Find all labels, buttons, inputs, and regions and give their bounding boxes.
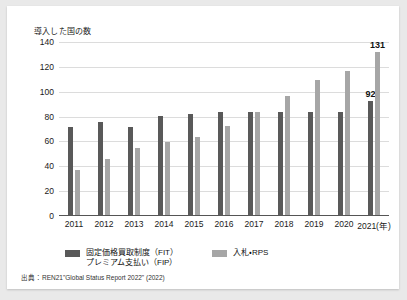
y-tick-label: 120	[40, 62, 54, 72]
bar-rps-2017	[255, 112, 260, 215]
x-tick-label-2011: 2011	[65, 219, 83, 229]
bar-group-2020: 2020	[338, 41, 350, 215]
x-axis-line	[59, 215, 389, 216]
bar-fit-2017	[248, 112, 253, 215]
x-tick-label-2014: 2014	[155, 219, 174, 229]
bar-value-label-fit-2021: 92	[365, 89, 375, 99]
bar-chart: 導入した国の数 02040608010012014020112012201320…	[7, 6, 399, 238]
bar-fit-2011	[68, 127, 73, 215]
bar-rps-2020	[345, 71, 350, 215]
y-tick-label: 0	[49, 211, 54, 221]
legend-label-rps: 入札・RPS	[233, 248, 268, 258]
bar-group-2014: 2014	[158, 41, 170, 215]
bar-group-2016: 2016	[218, 41, 230, 215]
bar-fit-2013	[128, 127, 133, 215]
bar-group-2021: 921312021(年)	[368, 41, 380, 215]
x-tick-label-2012: 2012	[95, 219, 114, 229]
plot-area: 0204060801001201402011201220132014201520…	[59, 42, 389, 216]
bar-rps-2012	[105, 159, 110, 215]
bar-fit-2020	[338, 112, 343, 215]
bar-group-2017: 2017	[248, 41, 260, 215]
bar-group-2015: 2015	[188, 41, 200, 215]
bar-rps-2018	[285, 96, 290, 215]
bar-fit-2019	[308, 112, 313, 215]
y-tick-label: 140	[40, 37, 54, 47]
legend-label-rps-line1: 入札・RPS	[233, 248, 268, 257]
y-tick-label: 80	[45, 112, 54, 122]
x-tick-label-2015: 2015	[185, 219, 204, 229]
bar-rps-2019	[315, 80, 320, 215]
bar-value-label-rps-2021: 131	[370, 40, 385, 50]
y-tick-label: 60	[45, 136, 54, 146]
chart-legend: 固定価格買取制度（FIT） プレミアム支払い（FIP） 入札・RPS	[65, 248, 268, 268]
y-tick-label: 100	[40, 87, 54, 97]
bar-group-2019: 2019	[308, 41, 320, 215]
legend-label-fit: 固定価格買取制度（FIT） プレミアム支払い（FIP）	[86, 248, 178, 268]
bar-group-2011: 2011	[68, 41, 80, 215]
bar-fit-2021: 92	[368, 101, 373, 215]
bar-rps-2013	[135, 148, 140, 215]
legend-item-fit: 固定価格買取制度（FIT） プレミアム支払い（FIP）	[65, 248, 178, 268]
y-axis-title: 導入した国の数	[34, 25, 91, 36]
x-tick-label-2018: 2018	[275, 219, 294, 229]
bar-fit-2012	[98, 122, 103, 215]
bar-fit-2016	[218, 112, 223, 215]
x-tick-label-2020: 2020	[335, 219, 354, 229]
x-tick-label-2019: 2019	[305, 219, 324, 229]
x-tick-label-2021: 2021(年)	[357, 219, 391, 231]
source-note: 出典：REN21"Global Status Report 2022" (202…	[21, 272, 165, 282]
bar-group-2013: 2013	[128, 41, 140, 215]
bar-rps-2021: 131	[375, 52, 380, 215]
legend-swatch-rps-icon	[212, 250, 227, 257]
y-tick-label: 20	[45, 186, 54, 196]
y-tick-label: 40	[45, 161, 54, 171]
bar-fit-2015	[188, 114, 193, 215]
bar-fit-2018	[278, 112, 283, 215]
legend-label-fit-line1: 固定価格買取制度（FIT）	[86, 248, 178, 257]
bar-rps-2011	[75, 170, 80, 215]
legend-swatch-fit-icon	[65, 250, 80, 257]
bar-group-2018: 2018	[278, 41, 290, 215]
bar-group-2012: 2012	[98, 41, 110, 215]
x-tick-label-2017: 2017	[245, 219, 264, 229]
legend-item-rps: 入札・RPS	[212, 248, 268, 258]
bar-rps-2015	[195, 137, 200, 215]
figure-card: 導入した国の数 02040608010012014020112012201320…	[7, 6, 399, 289]
bar-rps-2016	[225, 126, 230, 215]
bar-rps-2014	[165, 142, 170, 215]
x-tick-label-2016: 2016	[215, 219, 234, 229]
x-tick-label-2013: 2013	[125, 219, 144, 229]
bar-fit-2014	[158, 116, 163, 215]
legend-label-fit-line2: プレミアム支払い（FIP）	[86, 258, 177, 267]
